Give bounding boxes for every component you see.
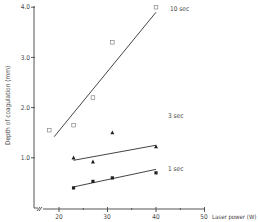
x-tick-label: 50 xyxy=(200,213,208,221)
open-square-marker xyxy=(91,96,95,100)
open-square-marker xyxy=(72,123,76,127)
x-tick-label: 20 xyxy=(55,213,63,221)
x-axis-title: Laser power (W) xyxy=(212,213,256,221)
fit-line xyxy=(74,169,156,187)
y-axis-title: Depth of coagulation (mm) xyxy=(4,66,12,145)
series-3-sec xyxy=(72,131,158,164)
x-tick-labels: 20 30 40 50 xyxy=(55,213,208,221)
axes xyxy=(34,6,205,211)
fit-line xyxy=(54,12,156,136)
series-10-sec xyxy=(48,5,158,136)
series-label-1-sec: 1 sec xyxy=(168,165,183,173)
coagulation-chart: 4.0 3.0 2.0 1.0 20 30 40 50 Laser power … xyxy=(0,0,258,222)
filled-square-marker xyxy=(91,180,94,183)
series-label-3-sec: 3 sec xyxy=(168,112,183,120)
x-tick-label: 40 xyxy=(152,213,160,221)
y-tick-label: 1.0 xyxy=(21,154,31,162)
open-square-marker xyxy=(48,128,52,132)
open-square-marker xyxy=(154,5,158,9)
filled-square-marker xyxy=(72,186,75,189)
filled-triangle-marker xyxy=(91,160,95,164)
filled-triangle-marker xyxy=(72,156,76,160)
filled-triangle-marker xyxy=(110,131,114,135)
y-tick-label: 3.0 xyxy=(21,54,31,62)
fit-line xyxy=(74,145,156,160)
x-tick-label: 30 xyxy=(103,213,111,221)
series-1-sec xyxy=(72,169,158,189)
open-square-marker xyxy=(111,41,115,45)
series-label-10-sec: 10 sec xyxy=(170,5,189,13)
axis-break-icon xyxy=(34,207,42,211)
y-tick-label: 2.0 xyxy=(21,104,31,112)
filled-square-marker xyxy=(154,171,157,174)
y-tick-label: 4.0 xyxy=(21,3,31,11)
y-tick-labels: 4.0 3.0 2.0 1.0 xyxy=(21,3,31,162)
filled-square-marker xyxy=(111,176,114,179)
series-layer xyxy=(48,5,159,189)
